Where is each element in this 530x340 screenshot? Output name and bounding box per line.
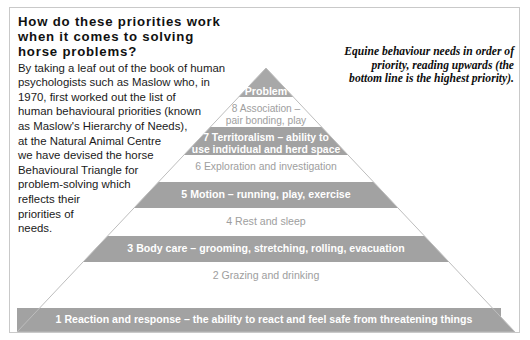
heading-line: How do these priorities — [18, 14, 182, 29]
body-line: 1970, first worked out the list of — [18, 90, 232, 105]
body-line: human behavioural priorities (known — [18, 104, 232, 119]
body-line: reflects their — [18, 192, 232, 207]
body-line: we have devised the horse — [18, 148, 232, 163]
page-title: How do these priorities work when it com… — [18, 14, 232, 60]
tier-1-band — [17, 308, 501, 332]
article-body: By taking a leaf out of the book of huma… — [18, 61, 232, 236]
body-line: priorities of — [18, 207, 232, 222]
body-line: at the Natural Animal Centre — [18, 134, 232, 149]
article-text-column: How do these priorities work when it com… — [18, 14, 232, 236]
body-line: problem-solving which — [18, 177, 232, 192]
infographic-canvas: How do these priorities work when it com… — [0, 0, 530, 340]
body-line: needs. — [18, 221, 232, 236]
triangle-caption: Equine behaviour needs in order of prior… — [298, 45, 514, 86]
caption-line: Equine behaviour needs in order of — [298, 45, 514, 59]
caption-line: bottom line is the highest priority). — [298, 72, 514, 86]
body-line: psychologists such as Maslow who, in — [18, 75, 232, 90]
body-line: as Maslow's Hierarchy of Needs), — [18, 119, 232, 134]
infographic-frame: How do these priorities work when it com… — [9, 7, 520, 333]
caption-line: priority, reading upwards (the — [298, 59, 514, 73]
body-line: By taking a leaf out of the book of huma… — [18, 61, 232, 76]
body-line: Behavioural Triangle for — [18, 163, 232, 178]
